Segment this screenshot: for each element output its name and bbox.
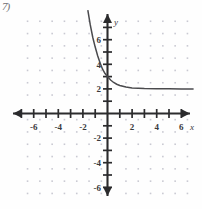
grid-dot: [76, 143, 78, 145]
grid-dot: [174, 168, 176, 170]
grid-dot: [64, 119, 66, 121]
grid-dot: [88, 119, 90, 121]
grid-dot: [27, 70, 29, 72]
grid-dot: [88, 94, 90, 96]
grid-dot: [27, 45, 29, 47]
grid-dot: [39, 180, 41, 182]
grid-dot: [64, 82, 66, 84]
grid-dot: [125, 131, 127, 133]
grid-dot: [137, 45, 139, 47]
x-axis-tick-label: -6: [30, 122, 38, 132]
grid-dot: [137, 57, 139, 59]
grid-dot: [174, 82, 176, 84]
grid-dot: [51, 143, 53, 145]
grid-dot: [101, 193, 103, 195]
grid-dot: [76, 20, 78, 22]
x-axis-right-arrow: [181, 109, 190, 118]
grid-dot: [27, 143, 29, 145]
grid-dot: [88, 193, 90, 195]
grid-dot: [64, 57, 66, 59]
grid-dot: [39, 131, 41, 133]
grid-dot: [125, 156, 127, 158]
grid-dot: [125, 45, 127, 47]
grid-dot: [137, 193, 139, 195]
grid-dot: [51, 168, 53, 170]
grid-dot: [76, 131, 78, 133]
grid-dot: [162, 119, 164, 121]
grid-dot: [137, 82, 139, 84]
grid-dot: [101, 168, 103, 170]
grid-dot: [64, 70, 66, 72]
grid-dot: [64, 168, 66, 170]
x-axis-tick-label: 4: [154, 122, 159, 132]
grid-dot: [51, 156, 53, 158]
grid-dot: [39, 156, 41, 158]
grid-dot: [64, 156, 66, 158]
graph-canvas: 7) -6-4-2246 642-2-4-6 x y: [0, 0, 202, 209]
grid-dot: [162, 193, 164, 195]
grid-dot: [76, 57, 78, 59]
grid-dot: [187, 82, 189, 84]
grid-dot: [174, 131, 176, 133]
grid-dot: [76, 180, 78, 182]
grid-dot: [51, 180, 53, 182]
x-axis-label: x: [189, 122, 194, 132]
grid-dot: [39, 143, 41, 145]
grid-dot: [76, 119, 78, 121]
grid-dot: [187, 193, 189, 195]
grid-dot: [150, 168, 152, 170]
y-axis-tick-label: -6: [94, 183, 102, 193]
grid-dot: [125, 57, 127, 59]
grid-dot: [39, 119, 41, 121]
grid-dot: [187, 70, 189, 72]
grid-dot: [76, 70, 78, 72]
grid-dot: [187, 168, 189, 170]
grid-dot: [187, 119, 189, 121]
grid-dot: [39, 33, 41, 35]
grid-dot: [150, 143, 152, 145]
grid-dot: [125, 143, 127, 145]
grid-dot: [150, 57, 152, 59]
grid-dot: [64, 180, 66, 182]
grid-dot: [39, 45, 41, 47]
grid-dot: [137, 180, 139, 182]
x-axis-tick-label: -4: [55, 122, 63, 132]
grid-dot: [64, 94, 66, 96]
grid-dot: [51, 193, 53, 195]
grid-dot: [76, 82, 78, 84]
coordinate-plane-svg: -6-4-2246 642-2-4-6 x y: [0, 0, 202, 209]
grid-dot: [137, 131, 139, 133]
x-axis-tick-label: -2: [79, 122, 87, 132]
grid-dot: [51, 94, 53, 96]
y-axis-top-arrow: [103, 14, 112, 23]
grid-dot: [51, 119, 53, 121]
grid-dot: [64, 131, 66, 133]
grid-dot: [51, 33, 53, 35]
grid-dot: [101, 94, 103, 96]
grid-dot: [187, 57, 189, 59]
y-axis-bottom-arrow: [103, 187, 112, 196]
grid-dot: [39, 94, 41, 96]
grid-dot: [162, 82, 164, 84]
grid-dot: [125, 193, 127, 195]
grid-dot: [137, 94, 139, 96]
grid-dot: [137, 119, 139, 121]
grid-dot: [150, 131, 152, 133]
grid-dot: [125, 168, 127, 170]
grid-dot: [125, 70, 127, 72]
grid-dot: [88, 33, 90, 35]
grid-dot: [162, 180, 164, 182]
grid-dot: [174, 33, 176, 35]
grid-dot: [101, 143, 103, 145]
grid-dot: [137, 70, 139, 72]
grid-dot: [137, 143, 139, 145]
x-axis-tick-label: 6: [179, 122, 184, 132]
grid-dot: [174, 45, 176, 47]
grid-dot: [39, 70, 41, 72]
grid-dot: [174, 193, 176, 195]
grid-dot: [187, 143, 189, 145]
y-axis-tick-label: -2: [94, 133, 102, 143]
grid-dot: [76, 45, 78, 47]
grid-dot: [187, 156, 189, 158]
grid-dot: [162, 168, 164, 170]
